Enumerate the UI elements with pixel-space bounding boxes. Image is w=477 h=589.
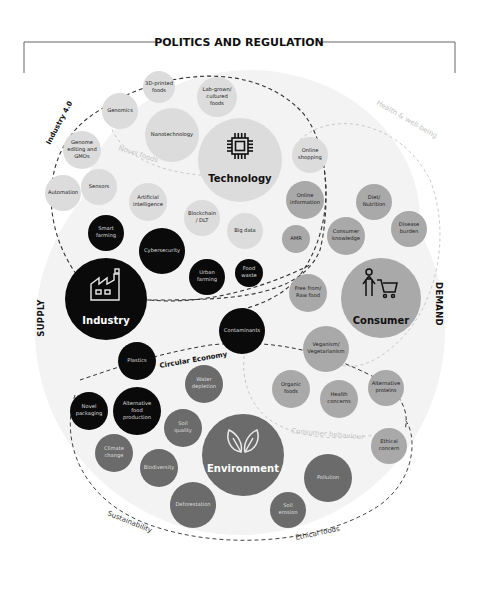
svg-text:Cybersecurity: Cybersecurity — [144, 247, 180, 254]
svg-text:Contaminants: Contaminants — [224, 327, 261, 333]
node-health-concerns[interactable]: Healthconcerns — [320, 380, 358, 418]
svg-text:Biodiversity: Biodiversity — [144, 464, 175, 471]
node-free-from[interactable]: Free from/Raw food — [289, 274, 327, 312]
node-consumer-knowledge[interactable]: Consumerknowledge — [327, 217, 365, 255]
node-organic-foods[interactable]: Organicfoods — [272, 370, 310, 408]
sustainability-label: Sustainability — [106, 509, 153, 534]
svg-text:Automation: Automation — [48, 189, 78, 195]
svg-text:Onlineshopping: Onlineshopping — [298, 147, 322, 161]
node-disease-burden[interactable]: Diseaseburden — [391, 211, 427, 247]
politics-regulation-frame: POLITICS AND REGULATION — [24, 36, 455, 73]
svg-text:Ethicalconcern: Ethicalconcern — [379, 438, 400, 451]
node-online-information[interactable]: Onlineinformation — [286, 181, 324, 219]
ethical-foods-label: Ethical foods — [295, 525, 341, 542]
svg-text:Sensors: Sensors — [89, 183, 110, 189]
node-sensors[interactable]: Sensors — [81, 169, 117, 205]
node-online-shopping[interactable]: Onlineshopping — [292, 137, 328, 173]
node-pollution[interactable]: Pollution — [304, 454, 352, 502]
svg-text:Diseaseburden: Diseaseburden — [399, 221, 419, 234]
svg-text:Artificialintelligence: Artificialintelligence — [133, 194, 163, 208]
hub-technology-label: Technology — [208, 173, 272, 184]
node-blockchain[interactable]: Blockchain/ DLT — [184, 200, 220, 236]
demand-axis-label: DEMAND — [434, 282, 444, 326]
svg-text:Alternativeproteins: Alternativeproteins — [372, 380, 400, 394]
svg-text:Foodwaste: Foodwaste — [241, 265, 256, 278]
svg-text:AMR: AMR — [290, 235, 302, 241]
node-alternative-food-production[interactable]: Alternativefoodproduction — [113, 387, 161, 435]
svg-text:Big data: Big data — [234, 227, 256, 234]
node-alternative-proteins[interactable]: Alternativeproteins — [368, 370, 404, 406]
node-cybersecurity[interactable]: Cybersecurity — [139, 228, 185, 274]
node-amr[interactable]: AMR — [282, 225, 310, 253]
node-plastics[interactable]: Plastics — [118, 342, 156, 380]
node-ethical-concern[interactable]: Ethicalconcern — [371, 428, 407, 464]
node-food-waste[interactable]: Foodwaste — [235, 259, 263, 287]
svg-text:Healthconcerns: Healthconcerns — [327, 391, 351, 404]
node-lab-grown-foods[interactable]: Lab-grown/culturedfoods — [197, 77, 237, 117]
svg-text:Nanotechnology: Nanotechnology — [151, 131, 193, 138]
node-smart-farming[interactable]: Smartfarming — [88, 215, 124, 251]
node-biodiversity[interactable]: Biodiversity — [140, 449, 178, 487]
hub-environment-label: Environment — [207, 463, 279, 474]
node-urban-farming[interactable]: Urbanfarming — [189, 259, 225, 295]
node-soil-quality[interactable]: Soilquality — [164, 409, 202, 447]
svg-text:Veganism/Vegetarianism: Veganism/Vegetarianism — [307, 341, 344, 355]
node-climate-change[interactable]: Climatechange — [95, 434, 133, 472]
svg-text:Smartfarming: Smartfarming — [96, 225, 116, 239]
node-genome-editing[interactable]: Genomeediting andGMOs — [63, 131, 101, 169]
node-3d-printed-foods[interactable]: 3D-printedfoods — [143, 71, 175, 103]
hub-technology[interactable]: Technology — [198, 118, 282, 202]
hub-consumer[interactable]: Consumer — [341, 258, 421, 338]
hub-environment[interactable]: Environment — [202, 414, 284, 496]
hub-industry[interactable]: Industry — [65, 258, 147, 340]
node-water-depletion[interactable]: Waterdepletion — [185, 365, 223, 403]
svg-text:Plastics: Plastics — [127, 357, 147, 363]
svg-text:Climatechange: Climatechange — [104, 445, 124, 459]
node-novel-packaging[interactable]: Novelpackaging — [70, 392, 108, 430]
svg-text:Consumerknowledge: Consumerknowledge — [332, 228, 360, 242]
svg-text:Urbanfarming: Urbanfarming — [197, 269, 217, 283]
food-system-diagram: POLITICS AND REGULATION SUPPLY DEMAND In… — [0, 0, 477, 589]
node-diet-nutrition[interactable]: Diet/Nutrition — [356, 184, 392, 220]
node-automation[interactable]: Automation — [45, 175, 81, 211]
svg-text:Deforestation: Deforestation — [175, 501, 210, 507]
svg-text:Free from/Raw food: Free from/Raw food — [295, 285, 322, 298]
node-contaminants[interactable]: Contaminants — [219, 308, 265, 354]
node-veganism[interactable]: Veganism/Vegetarianism — [303, 326, 349, 372]
node-genomics[interactable]: Genomics — [102, 93, 138, 129]
node-nanotechnology[interactable]: Nanotechnology — [145, 108, 199, 162]
svg-text:Pollution: Pollution — [317, 474, 339, 480]
node-ai[interactable]: Artificialintelligence — [129, 183, 167, 221]
frame-title: POLITICS AND REGULATION — [154, 36, 324, 49]
supply-axis-label: SUPPLY — [36, 299, 46, 337]
hub-industry-label: Industry — [82, 315, 130, 326]
hub-consumer-label: Consumer — [353, 315, 410, 326]
svg-text:Genomics: Genomics — [107, 107, 133, 113]
node-big-data[interactable]: Big data — [227, 213, 263, 249]
node-deforestation[interactable]: Deforestation — [170, 482, 216, 528]
node-soil-erosion[interactable]: Soilerosion — [270, 492, 306, 528]
